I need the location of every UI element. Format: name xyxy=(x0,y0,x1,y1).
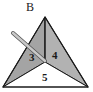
face-label-5: 5 xyxy=(42,71,48,83)
pyramid-diagram: B 3 4 5 xyxy=(0,0,93,92)
vertex-label-b: B xyxy=(26,0,34,14)
face-label-3: 3 xyxy=(29,51,35,63)
face-label-4: 4 xyxy=(52,49,58,61)
